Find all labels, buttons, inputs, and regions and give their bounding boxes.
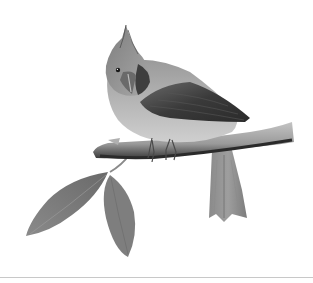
- bottom-divider: [0, 277, 313, 278]
- illustration: [0, 0, 313, 283]
- bird-illustration: [0, 0, 313, 283]
- leaves: [26, 154, 135, 257]
- eye: [116, 68, 120, 72]
- bird-head: [106, 25, 150, 96]
- tail: [209, 150, 247, 222]
